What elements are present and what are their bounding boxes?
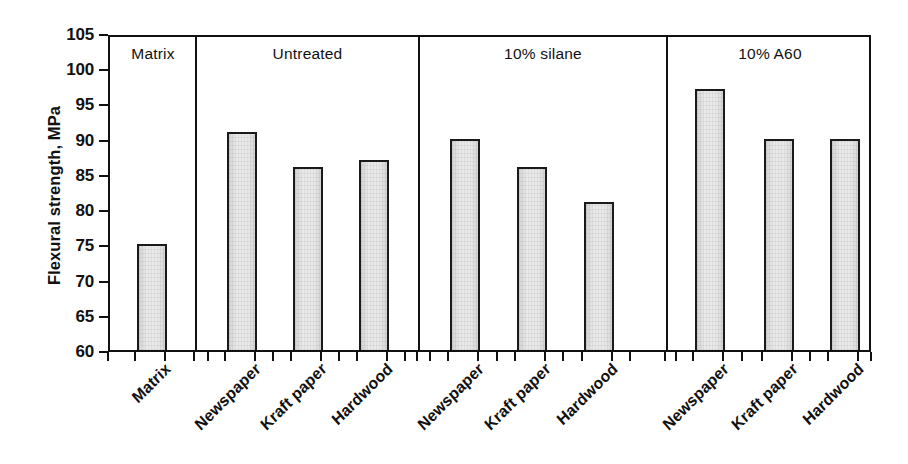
bar-texture — [766, 141, 792, 350]
y-axis-tick-mark — [99, 210, 108, 212]
bar — [359, 160, 389, 350]
x-axis-category-label: Hardwood — [553, 360, 622, 429]
group-divider — [195, 37, 197, 350]
y-axis-tick-mark — [99, 316, 108, 318]
y-axis-tick-label: 85 — [75, 166, 94, 186]
x-axis-category-label: Kraft paper — [257, 360, 331, 434]
x-axis-category-label: Kraft paper — [728, 360, 802, 434]
bar — [137, 244, 167, 350]
y-axis-tick-mark — [99, 104, 108, 106]
group-divider — [418, 37, 420, 350]
y-axis-tick-mark — [99, 69, 108, 71]
y-axis-tick-label: 105 — [66, 25, 94, 45]
bar — [293, 167, 323, 350]
group-header-10-silane: 10% silane — [419, 37, 667, 71]
x-axis-category-label-text: Newspaper — [659, 360, 732, 435]
bar-texture — [697, 91, 723, 350]
y-axis-tick-mark — [99, 34, 108, 36]
y-axis-tick-label: 65 — [75, 307, 94, 327]
bar — [450, 139, 480, 350]
y-axis-tick-mark — [99, 281, 108, 283]
bar — [517, 167, 547, 350]
y-axis-tick-label: 75 — [75, 236, 94, 256]
bar — [764, 139, 794, 350]
y-axis-tick-label: 80 — [75, 201, 94, 221]
x-axis-category-label-text: Kraft paper — [728, 360, 801, 435]
y-axis-tick-label: 90 — [75, 131, 94, 151]
bar — [830, 139, 860, 350]
x-axis-category-label: Newspaper — [191, 360, 265, 434]
x-axis-category-label-text: Hardwood — [329, 360, 397, 430]
bar-texture — [586, 204, 612, 350]
x-axis-category-label: Hardwood — [328, 360, 397, 429]
x-axis-category-label-text: Kraft paper — [257, 360, 330, 435]
bar — [227, 132, 257, 350]
group-header-matrix: Matrix — [110, 37, 196, 71]
y-axis-tick-label: 70 — [75, 272, 94, 292]
bar — [584, 202, 614, 350]
bar-texture — [519, 169, 545, 350]
flexural-strength-bar-chart: Flexural strength, MPa 10510095908580757… — [0, 0, 908, 464]
bar-texture — [361, 162, 387, 350]
x-axis-category-label-text: Newspaper — [191, 360, 264, 435]
y-axis-tick-mark — [99, 175, 108, 177]
bar-texture — [832, 141, 858, 350]
x-axis-category-label-text: Kraft paper — [481, 360, 554, 435]
x-axis-category-label-text: Hardwood — [800, 360, 868, 430]
x-axis-category-label-text: Matrix — [129, 360, 175, 407]
bar-texture — [295, 169, 321, 350]
x-axis-category-label-text: Newspaper — [414, 360, 487, 435]
x-axis-category-label-text: Hardwood — [554, 360, 622, 430]
x-axis-category-label: Matrix — [128, 360, 174, 406]
y-axis-tick-label: 100 — [66, 60, 94, 80]
y-axis-tick-mark — [99, 140, 108, 142]
y-axis-tick-mark — [99, 245, 108, 247]
bar-texture — [229, 134, 255, 350]
x-axis-category-label: Newspaper — [659, 360, 733, 434]
x-axis-category-labels: MatrixNewspaperKraft paperHardwoodNewspa… — [0, 352, 908, 464]
group-header-10-a60: 10% A60 — [667, 37, 873, 71]
x-axis-category-label: Hardwood — [799, 360, 868, 429]
x-axis-category-label: Newspaper — [414, 360, 488, 434]
plot-area: MatrixUntreated10% silane10% A60 — [108, 35, 871, 352]
x-axis-category-label: Kraft paper — [481, 360, 555, 434]
bar — [695, 89, 725, 350]
bar-texture — [139, 246, 165, 350]
group-divider — [666, 37, 668, 350]
bar-texture — [452, 141, 478, 350]
group-header-untreated: Untreated — [196, 37, 419, 71]
y-axis-tick-label: 95 — [75, 95, 94, 115]
